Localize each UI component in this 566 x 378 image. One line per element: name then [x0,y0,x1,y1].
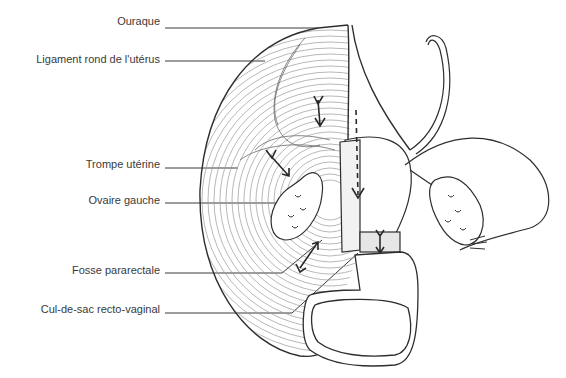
ovary-left [271,173,322,240]
uterus [340,137,411,252]
rectum [303,252,418,366]
tube-right [410,170,432,185]
arrow-ovary [266,150,289,176]
ligament-rond-right [410,36,450,154]
pelvis-illustration [0,0,566,378]
